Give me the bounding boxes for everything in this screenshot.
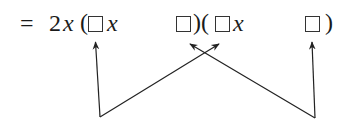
arrow-to-box-4-icon [312,42,315,118]
arrow-to-box-3-icon [100,44,219,117]
connector-arrows [0,0,353,132]
arrow-to-box-1-icon [96,42,101,117]
arrow-to-box-2-icon [190,44,315,118]
